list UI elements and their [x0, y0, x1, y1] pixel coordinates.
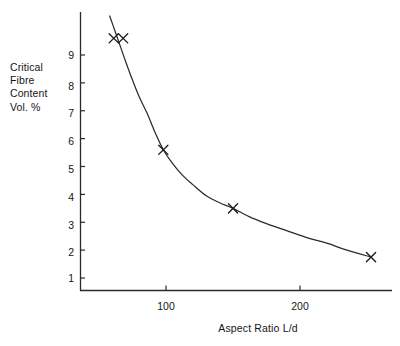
x-tick-marks — [166, 286, 300, 291]
plot-area — [0, 0, 400, 346]
y-tick-marks — [81, 55, 86, 278]
data-point-markers — [109, 34, 375, 262]
data-curve — [110, 16, 371, 257]
chart-figure: Critical Fibre Content Vol. % 1 2 3 4 5 … — [0, 0, 400, 346]
